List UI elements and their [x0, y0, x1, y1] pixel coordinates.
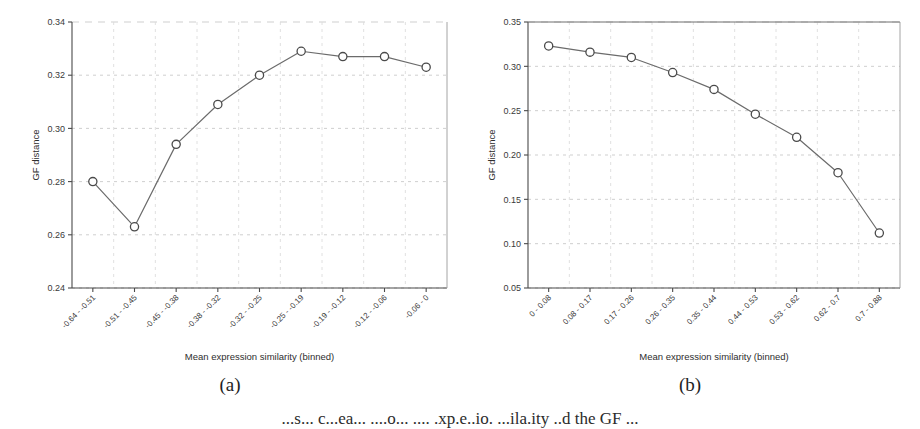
- data-point-marker: [669, 68, 677, 76]
- x-tick-label: -0.25 - -0.19: [268, 293, 306, 331]
- y-tick-label: 0.25: [503, 106, 521, 116]
- data-point-marker: [875, 229, 883, 237]
- subcaption-b: (b): [460, 374, 920, 396]
- chart-panel-a: 0.240.260.280.300.320.34-0.64 - -0.51-0.…: [0, 0, 460, 429]
- x-tick-label: 0.7 - 0.88: [853, 293, 884, 324]
- x-tick-label: 0 - 0.08: [528, 293, 554, 319]
- x-tick-label: -0.64 - -0.51: [60, 293, 98, 331]
- y-tick-label: 0.10: [503, 239, 521, 249]
- data-point-marker: [751, 110, 759, 118]
- x-axis-title: Mean expression similarity (binned): [639, 351, 788, 362]
- data-point-marker: [710, 85, 718, 93]
- x-tick-label: -0.19 - -0.12: [310, 293, 348, 331]
- x-tick-label: -0.32 - -0.25: [227, 293, 265, 331]
- x-tick-label: 0.17 - 0.26: [602, 293, 636, 327]
- y-tick-label: 0.26: [47, 230, 65, 240]
- chart-panel-b: 0.050.100.150.200.250.300.350 - 0.080.08…: [460, 0, 920, 429]
- data-series-line: [549, 46, 880, 233]
- x-tick-label: -0.45 - -0.38: [143, 293, 181, 331]
- data-point-marker: [793, 133, 801, 141]
- x-tick-label: -0.38 - -0.32: [185, 293, 223, 331]
- x-tick-label: -0.51 - -0.45: [102, 293, 140, 331]
- y-tick-label: 0.15: [503, 195, 521, 205]
- y-tick-label: 0.20: [503, 150, 521, 160]
- x-tick-label: -0.12 - -0.06: [352, 293, 390, 331]
- subcaption-a: (a): [0, 374, 460, 396]
- line-chart-a: 0.240.260.280.300.320.34-0.64 - -0.51-0.…: [0, 0, 460, 375]
- y-tick-label: 0.05: [503, 283, 521, 293]
- x-tick-label: 0.44 - 0.53: [726, 293, 760, 327]
- y-tick-label: 0.30: [503, 62, 521, 72]
- x-tick-label: -0.06 - 0: [403, 293, 431, 321]
- x-axis-title: Mean expression similarity (binned): [185, 351, 334, 362]
- x-tick-label: 0.35 - 0.44: [685, 293, 719, 327]
- data-point-marker: [172, 140, 180, 148]
- x-tick-label: 0.08 - 0.17: [561, 293, 595, 327]
- y-tick-label: 0.34: [47, 17, 65, 27]
- y-axis-title: GF distance: [486, 129, 497, 180]
- y-tick-label: 0.28: [47, 177, 65, 187]
- data-point-marker: [130, 223, 138, 231]
- data-point-marker: [297, 47, 305, 55]
- data-point-marker: [255, 71, 263, 79]
- data-point-marker: [89, 178, 97, 186]
- data-point-marker: [627, 53, 635, 61]
- line-chart-b: 0.050.100.150.200.250.300.350 - 0.080.08…: [460, 0, 920, 375]
- data-point-marker: [339, 52, 347, 60]
- x-tick-label: 0.26 - 0.35: [644, 293, 678, 327]
- figure-caption: ...s... c...ea... ....o... .... .xp.e..i…: [0, 409, 920, 429]
- data-point-marker: [834, 169, 842, 177]
- data-point-marker: [545, 42, 553, 50]
- figure-container: 0.240.260.280.300.320.34-0.64 - -0.51-0.…: [0, 0, 920, 429]
- y-axis-title: GF distance: [30, 129, 41, 180]
- data-point-marker: [422, 63, 430, 71]
- y-tick-label: 0.35: [503, 17, 521, 27]
- y-tick-label: 0.24: [47, 283, 65, 293]
- y-tick-label: 0.30: [47, 124, 65, 134]
- x-tick-label: 0.53 - 0.62: [768, 293, 802, 327]
- y-tick-label: 0.32: [47, 70, 65, 80]
- data-point-marker: [380, 52, 388, 60]
- data-point-marker: [214, 100, 222, 108]
- data-point-marker: [586, 48, 594, 56]
- x-tick-label: 0.62 - 0.7: [812, 293, 843, 324]
